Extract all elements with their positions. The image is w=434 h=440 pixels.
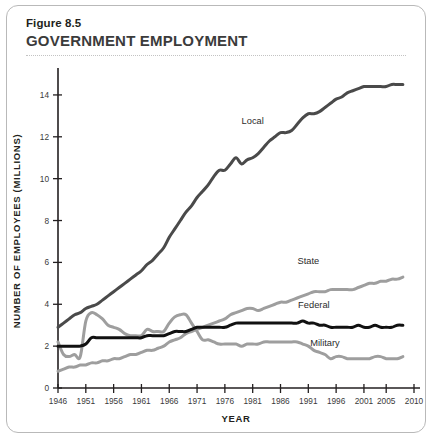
- series-label-state: State: [297, 256, 319, 266]
- x-tick-label: 1956: [104, 396, 123, 406]
- x-tick-label: 1991: [299, 396, 318, 406]
- y-tick-label: 4: [44, 299, 49, 309]
- y-tick-label: 12: [40, 132, 50, 142]
- line-chart: 0246810121419461951195619611966197119761…: [6, 56, 426, 428]
- x-tick-label: 1966: [160, 396, 179, 406]
- x-tick-label: 1976: [216, 396, 235, 406]
- figure-header: Figure 8.5 GOVERNMENT EMPLOYMENT: [26, 16, 398, 50]
- x-tick-label: 2005: [377, 396, 396, 406]
- y-tick-label: 0: [44, 383, 49, 393]
- x-axis-title: YEAR: [221, 413, 250, 424]
- series-label-federal: Federal: [298, 300, 330, 310]
- y-axis-title: NUMBER OF EMPLOYEES (MILLIONS): [11, 134, 22, 329]
- x-tick-label: 1986: [271, 396, 290, 406]
- x-tick-label: 2001: [355, 396, 374, 406]
- x-tick-label: 2010: [405, 396, 424, 406]
- x-tick-label: 1971: [188, 396, 207, 406]
- y-tick-label: 2: [44, 341, 49, 351]
- series-label-military: Military: [310, 338, 340, 348]
- y-tick-label: 10: [40, 174, 50, 184]
- series-label-local: Local: [242, 116, 264, 126]
- x-tick-label: 1946: [49, 396, 68, 406]
- chart-area: 0246810121419461951195619611966197119761…: [6, 56, 426, 428]
- x-tick-label: 1981: [243, 396, 262, 406]
- figure-card: Figure 8.5 GOVERNMENT EMPLOYMENT 0246810…: [0, 0, 434, 440]
- y-tick-label: 8: [44, 216, 49, 226]
- x-tick-label: 1996: [327, 396, 346, 406]
- figure-title: GOVERNMENT EMPLOYMENT: [26, 31, 398, 50]
- y-tick-label: 6: [44, 257, 49, 267]
- y-tick-label: 14: [40, 90, 50, 100]
- x-tick-label: 1951: [77, 396, 96, 406]
- figure-number: Figure 8.5: [26, 16, 398, 30]
- series-line-military: [58, 312, 403, 359]
- x-tick-label: 1961: [132, 396, 151, 406]
